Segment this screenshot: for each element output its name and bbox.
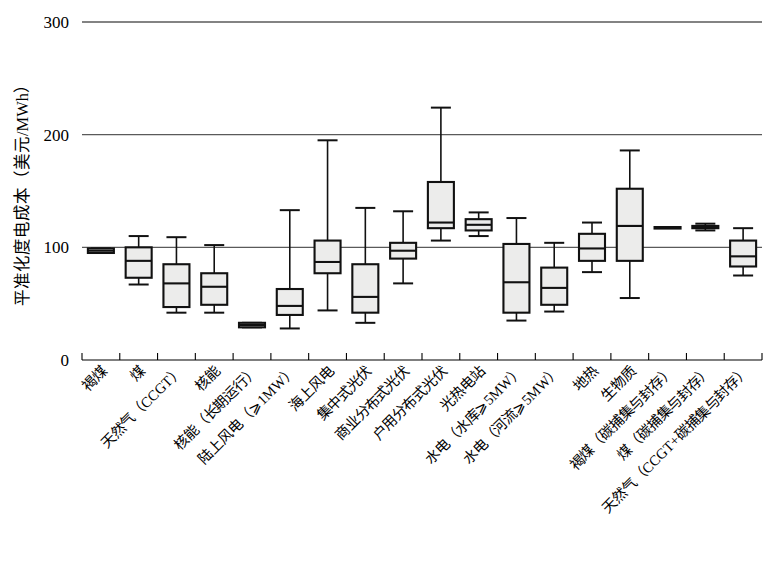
box-iqr — [352, 264, 378, 312]
boxplot-series — [88, 108, 756, 329]
y-axis-title: 平准化度电成本（美元/MWh） — [13, 76, 32, 306]
y-axis: 0100200300 — [44, 13, 70, 370]
boxplot-9 — [390, 211, 416, 283]
x-tick-label-1: 褐煤 — [79, 363, 110, 394]
y-tick-label-200: 200 — [44, 126, 70, 145]
box-iqr — [730, 241, 756, 267]
boxplot-16 — [655, 227, 681, 229]
x-axis — [82, 353, 762, 360]
boxplot-chart: 0100200300平准化度电成本（美元/MWh）褐煤煤天然气（CCGT）核能核… — [0, 0, 774, 561]
boxplot-5 — [239, 323, 265, 328]
boxplot-2 — [126, 236, 152, 284]
box-iqr — [541, 268, 567, 305]
box-iqr — [163, 264, 189, 307]
boxplot-10 — [428, 108, 454, 241]
boxplot-17 — [692, 224, 718, 231]
box-iqr — [315, 241, 341, 274]
box-iqr — [277, 289, 303, 315]
x-tick-label-4: 核能 — [192, 363, 223, 394]
box-iqr — [428, 182, 454, 228]
boxplot-3 — [163, 237, 189, 312]
box-iqr — [126, 247, 152, 277]
x-tick-labels: 褐煤煤天然气（CCGT）核能核能（长期运行）陆上风电（⩾1MW）海上风电集中式光… — [79, 362, 752, 516]
boxplot-18 — [730, 228, 756, 275]
x-tick-label-14: 地热 — [570, 362, 602, 394]
gridlines — [82, 22, 762, 247]
y-tick-label-300: 300 — [44, 13, 70, 32]
boxplot-11 — [466, 212, 492, 236]
box-iqr — [617, 189, 643, 261]
chart-canvas: 0100200300平准化度电成本（美元/MWh）褐煤煤天然气（CCGT）核能核… — [0, 0, 774, 561]
boxplot-12 — [503, 218, 529, 321]
boxplot-14 — [579, 223, 605, 273]
boxplot-8 — [352, 208, 378, 323]
boxplot-7 — [315, 140, 341, 310]
boxplot-1 — [88, 248, 114, 253]
box-iqr — [503, 244, 529, 313]
box-iqr — [579, 234, 605, 261]
boxplot-15 — [617, 150, 643, 298]
box-iqr — [201, 273, 227, 305]
y-tick-label-100: 100 — [44, 238, 70, 257]
boxplot-6 — [277, 210, 303, 328]
y-tick-label-0: 0 — [61, 351, 70, 370]
x-tick-label-2: 煤 — [127, 363, 148, 384]
boxplot-13 — [541, 243, 567, 312]
boxplot-4 — [201, 245, 227, 313]
